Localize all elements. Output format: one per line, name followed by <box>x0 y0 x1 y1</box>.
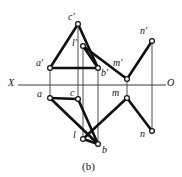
point-marker-n_prime <box>150 39 155 44</box>
point-marker-l_prime <box>81 44 86 49</box>
label-n: n <box>140 129 145 139</box>
point-marker-a <box>48 96 53 101</box>
point-marker-n <box>150 129 155 134</box>
point-marker-b <box>96 142 101 147</box>
point-marker-m_prime <box>125 77 130 82</box>
point-marker-l <box>81 137 86 142</box>
point-marker-b_prime <box>96 66 101 71</box>
segment-m_prime-n_prime <box>127 41 152 79</box>
label-c: c <box>70 88 74 98</box>
label-l: l <box>73 130 76 140</box>
axis-label-o: O <box>167 78 174 88</box>
label-a-prime: a' <box>36 58 43 68</box>
figure-container: c' n' l' a' b' m' a c m n l b X O (b) <box>0 0 182 177</box>
label-m: m <box>112 88 119 98</box>
segment-l-m <box>83 98 127 139</box>
label-b-prime: b' <box>101 68 108 78</box>
label-b: b <box>102 145 107 155</box>
label-n-prime: n' <box>140 26 147 36</box>
figure-caption: (b) <box>82 161 95 172</box>
point-marker-m <box>125 96 130 101</box>
point-marker-c <box>76 97 81 102</box>
label-a: a <box>37 89 42 99</box>
segment-a-c <box>50 98 78 99</box>
axis-label-x: X <box>8 78 14 88</box>
label-l-prime: l' <box>72 38 77 48</box>
segment-m-n <box>127 98 152 131</box>
label-c-prime: c' <box>68 12 75 22</box>
point-marker-a_prime <box>48 66 53 71</box>
point-marker-c_prime <box>76 22 81 27</box>
projection-diagram <box>0 0 182 177</box>
label-m-prime: m' <box>113 58 122 68</box>
